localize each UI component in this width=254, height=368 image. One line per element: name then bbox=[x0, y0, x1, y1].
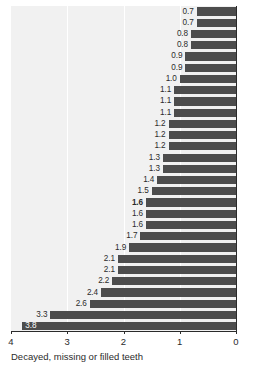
bar[interactable] bbox=[169, 120, 237, 128]
bar[interactable] bbox=[140, 232, 236, 240]
x-tick-label: 3 bbox=[65, 336, 70, 348]
bar[interactable] bbox=[197, 19, 236, 27]
bar-row: 3.3 bbox=[11, 310, 236, 321]
bar-row: 1.6 bbox=[11, 197, 236, 208]
bar-value-label: 1.3 bbox=[144, 152, 160, 164]
bar-value-label: 2.1 bbox=[99, 264, 115, 276]
bar-row: 1.6 bbox=[11, 220, 236, 231]
bar-row: 1.2 bbox=[11, 141, 236, 152]
bar-row: 2.4 bbox=[11, 287, 236, 298]
bar-chart: 0.70.70.80.80.90.91.01.11.11.11.21.21.21… bbox=[0, 0, 254, 368]
bar-row: 1.6 bbox=[11, 208, 236, 219]
bar[interactable] bbox=[169, 142, 237, 150]
bar-row: 1.9 bbox=[11, 242, 236, 253]
tick-mark bbox=[236, 331, 237, 334]
bar-row: 1.1 bbox=[11, 85, 236, 96]
bar-value-label: 1.2 bbox=[150, 140, 166, 152]
bar-value-label: 1.6 bbox=[127, 208, 143, 220]
bar-row: 1.3 bbox=[11, 152, 236, 163]
bar-row: 0.7 bbox=[11, 17, 236, 28]
bar-row: 2.1 bbox=[11, 253, 236, 264]
bar-row: 1.1 bbox=[11, 107, 236, 118]
bar-row: 0.8 bbox=[11, 28, 236, 39]
bar[interactable] bbox=[197, 7, 236, 15]
tick-mark bbox=[180, 331, 181, 334]
plot-area: 0.70.70.80.80.90.91.01.11.11.11.21.21.21… bbox=[11, 6, 236, 332]
bar-row: 2.2 bbox=[11, 276, 236, 287]
x-axis-label: Decayed, missing or filled teeth bbox=[11, 350, 143, 363]
bar-value-label: 0.7 bbox=[178, 17, 194, 29]
bar[interactable] bbox=[129, 243, 236, 251]
x-tick-label: 1 bbox=[177, 336, 182, 348]
bar[interactable] bbox=[146, 221, 236, 229]
bar[interactable] bbox=[185, 52, 236, 60]
bar-value-label: 1.5 bbox=[133, 185, 149, 197]
bar-value-label: 1.1 bbox=[155, 95, 171, 107]
bar[interactable] bbox=[101, 288, 236, 296]
bar[interactable] bbox=[152, 187, 236, 195]
bar-row: 0.9 bbox=[11, 62, 236, 73]
bar-row: 1.2 bbox=[11, 118, 236, 129]
bar-value-label: 3.3 bbox=[31, 309, 47, 321]
bar-value-label: 2.6 bbox=[71, 298, 87, 310]
bar[interactable] bbox=[118, 255, 236, 263]
tick-mark bbox=[67, 331, 68, 334]
bar[interactable] bbox=[157, 176, 236, 184]
x-tick-label: 4 bbox=[8, 336, 13, 348]
bar-value-label: 1.6 bbox=[127, 219, 143, 231]
bar[interactable] bbox=[174, 97, 236, 105]
bar-value-label: 1.1 bbox=[155, 107, 171, 119]
bar-value-label: 1.6 bbox=[127, 197, 143, 209]
bar-row: 0.8 bbox=[11, 40, 236, 51]
bar[interactable] bbox=[180, 75, 236, 83]
bar-value-label: 1.2 bbox=[150, 118, 166, 130]
bar[interactable] bbox=[174, 109, 236, 117]
bar-value-label: 0.7 bbox=[178, 6, 194, 18]
bar-row: 1.5 bbox=[11, 186, 236, 197]
bar-row: 1.4 bbox=[11, 175, 236, 186]
x-tick-label: 2 bbox=[121, 336, 126, 348]
tick-mark bbox=[11, 331, 12, 334]
bar[interactable] bbox=[191, 41, 236, 49]
bar-value-label: 0.9 bbox=[166, 62, 182, 74]
bar[interactable] bbox=[191, 30, 236, 38]
bar[interactable] bbox=[90, 300, 236, 308]
bar[interactable] bbox=[163, 154, 236, 162]
bar-value-label: 1.2 bbox=[150, 129, 166, 141]
bar[interactable] bbox=[118, 266, 236, 274]
bar-value-label: 1.1 bbox=[155, 84, 171, 96]
bar[interactable] bbox=[50, 311, 236, 319]
bar-row: 1.1 bbox=[11, 96, 236, 107]
bar-row: 2.6 bbox=[11, 298, 236, 309]
bar-value-label: 1.9 bbox=[110, 242, 126, 254]
bar-value-label: 0.9 bbox=[166, 50, 182, 62]
bar[interactable] bbox=[22, 322, 236, 330]
bar-value-label: 2.2 bbox=[93, 275, 109, 287]
bar-row: 1.3 bbox=[11, 163, 236, 174]
bar-value-label: 2.4 bbox=[82, 287, 98, 299]
bar-value-label: 0.8 bbox=[172, 28, 188, 40]
bar-row: 0.7 bbox=[11, 6, 236, 17]
bar-value-label: 1.3 bbox=[144, 163, 160, 175]
bar[interactable] bbox=[163, 165, 236, 173]
bar-row: 2.1 bbox=[11, 265, 236, 276]
bar[interactable] bbox=[185, 64, 236, 72]
bar[interactable] bbox=[112, 277, 236, 285]
bar-value-label: 2.1 bbox=[99, 253, 115, 265]
bar[interactable] bbox=[174, 86, 236, 94]
bar-row: 0.9 bbox=[11, 51, 236, 62]
bar-row: 1.2 bbox=[11, 130, 236, 141]
bar-value-label: 1.4 bbox=[138, 174, 154, 186]
tick-mark bbox=[124, 331, 125, 334]
bar[interactable] bbox=[169, 131, 237, 139]
bar[interactable] bbox=[146, 198, 236, 206]
bar-row: 1.7 bbox=[11, 231, 236, 242]
bar-value-label: 1.7 bbox=[121, 230, 137, 242]
bar[interactable] bbox=[146, 210, 236, 218]
value-axis-line bbox=[236, 6, 237, 332]
bar-rows: 0.70.70.80.80.90.91.01.11.11.11.21.21.21… bbox=[11, 6, 236, 332]
x-tick-label: 0 bbox=[233, 336, 238, 348]
bar-row: 1.0 bbox=[11, 73, 236, 84]
bar-value-label: 0.8 bbox=[172, 39, 188, 51]
bar-value-label: 1.0 bbox=[161, 73, 177, 85]
